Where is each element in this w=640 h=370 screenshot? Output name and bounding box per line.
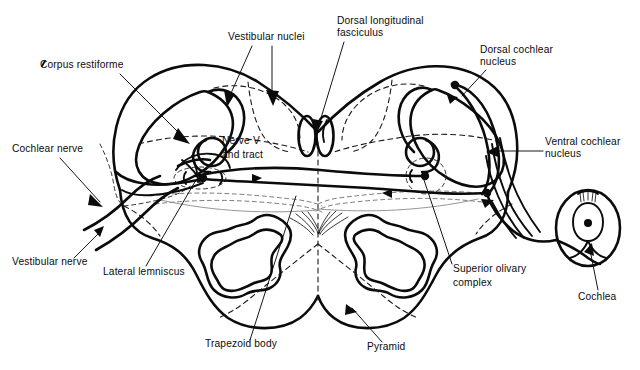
label-nerve-v-and-tract-line1: Nerve V bbox=[222, 135, 260, 146]
label-superior-olivary-complex-line2: complex bbox=[453, 277, 492, 288]
label-corpus-restiforme: Corpus restiforme bbox=[40, 59, 124, 70]
label-cochlea: Cochlea bbox=[578, 291, 617, 302]
label-ventral-cochlear-nucleus-line1: Ventral cochlear bbox=[545, 136, 621, 147]
label-vestibular-nerve: Vestibular nerve bbox=[12, 256, 88, 267]
label-dorsal-longitudinal-fasciculus-line2: fasciculus bbox=[337, 27, 383, 38]
label-lateral-lemniscus: Lateral lemniscus bbox=[103, 266, 185, 277]
label-superior-olivary-complex-line1: Superior olivary bbox=[453, 263, 527, 274]
cochlea bbox=[556, 190, 620, 266]
vestibular-nuclei-region bbox=[139, 80, 500, 152]
brainstem-auditory-pathway-diagram: Corpus restiforme Vestibular nuclei Dors… bbox=[0, 0, 640, 370]
label-vestibular-nuclei: Vestibular nuclei bbox=[228, 31, 305, 42]
label-dorsal-longitudinal-fasciculus-line1: Dorsal longitudinal bbox=[337, 15, 424, 26]
label-dorsal-cochlear-nucleus-line1: Dorsal cochlear bbox=[480, 44, 553, 55]
label-ventral-cochlear-nucleus-line2: nucleus bbox=[545, 148, 581, 159]
label-pyramid: Pyramid bbox=[367, 341, 406, 352]
label-nerve-v-and-tract-line2: and tract bbox=[222, 149, 263, 160]
inferior-olive-right bbox=[345, 215, 437, 297]
pyramid-dashed-borders bbox=[124, 142, 512, 318]
label-cochlear-nerve: Cochlear nerve bbox=[12, 143, 83, 154]
label-dorsal-cochlear-nucleus-line2: nucleus bbox=[480, 56, 516, 67]
anatomy-figure: Corpus restiforme Vestibular nuclei Dors… bbox=[0, 0, 640, 370]
label-trapezoid-body: Trapezoid body bbox=[205, 338, 278, 349]
